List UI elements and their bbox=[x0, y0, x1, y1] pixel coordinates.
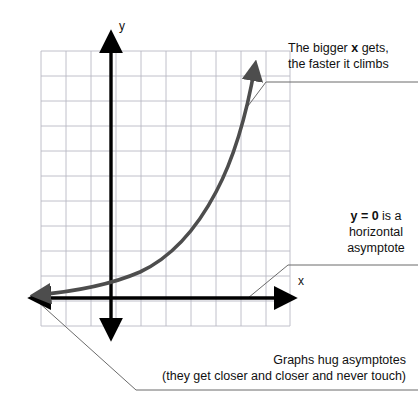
callout-asymptote-emphasis: y = 0 bbox=[350, 209, 378, 223]
x-axis-label: x bbox=[298, 274, 304, 288]
callout-climbs-suffix: gets, bbox=[358, 41, 389, 55]
callout-asymptote-line3: asymptote bbox=[340, 240, 412, 256]
callout-asymptote: y = 0 is a horizontal asymptote bbox=[340, 208, 412, 256]
callout-climbs: The bigger x gets, the faster it climbs bbox=[288, 40, 389, 72]
leader-line-asymptote bbox=[248, 265, 418, 298]
callout-asymptote-rest: is a bbox=[379, 209, 402, 223]
callout-asymptote-line2: horizontal bbox=[340, 224, 412, 240]
callout-hug-line1: Graphs hug asymptotes bbox=[148, 352, 406, 368]
leader-line-climbs bbox=[248, 82, 418, 106]
callout-climbs-line2: the faster it climbs bbox=[288, 56, 389, 72]
callout-climbs-prefix: The bigger bbox=[288, 41, 351, 55]
callout-asymptote-line1: y = 0 is a bbox=[340, 208, 412, 224]
callout-hug: Graphs hug asymptotes (they get closer a… bbox=[148, 352, 406, 384]
callout-climbs-line1: The bigger x gets, bbox=[288, 40, 389, 56]
callout-hug-line2: (they get closer and closer and never to… bbox=[148, 368, 406, 384]
exponential-curve bbox=[36, 66, 255, 295]
grid bbox=[41, 51, 290, 326]
y-axis-label: y bbox=[119, 19, 125, 33]
